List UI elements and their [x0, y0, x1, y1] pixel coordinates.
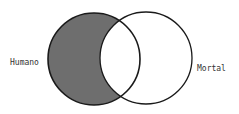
- venn-diagram: Humano Mortal: [0, 0, 239, 114]
- humano-label: Humano: [10, 58, 39, 67]
- mortal-label: Mortal: [197, 64, 226, 73]
- mortal-circle: [100, 12, 192, 104]
